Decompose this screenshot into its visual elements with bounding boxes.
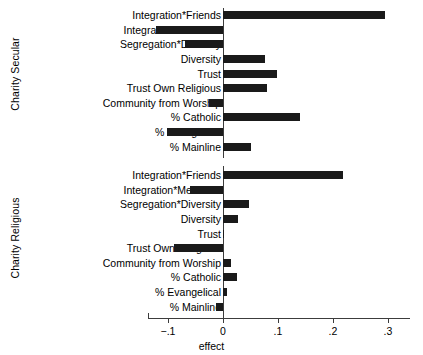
bar-category-label: % Evangelical (155, 287, 221, 298)
x-axis-title: effect (0, 340, 423, 352)
bar-row: Diversity (0, 52, 423, 67)
bar-row: % Evangelical (0, 285, 423, 300)
bar-category-label: Trust Own Religious (127, 83, 221, 94)
bar (174, 244, 224, 252)
bar-category-label: Community from Worship (103, 257, 221, 268)
bar (156, 26, 223, 34)
bar-row: Trust Own Religious (0, 81, 423, 96)
x-axis-tick-label: 0 (220, 325, 226, 337)
bar-row: Segregation*Diversity (0, 197, 423, 212)
x-axis-tick-label: .3 (384, 325, 393, 337)
bar (223, 113, 300, 121)
bar (223, 143, 251, 151)
bar (216, 303, 223, 311)
x-axis-tick (223, 318, 224, 323)
x-axis-line (148, 318, 410, 319)
effect-bar-chart: Charity Secular Charity Religious Integr… (0, 0, 423, 355)
bar-category-label: % Mainline (170, 141, 221, 152)
bar-row: Integration*Friends (0, 8, 423, 23)
panel-charity-secular: Integration*FriendsIntegration*MembersSe… (0, 8, 423, 156)
bar-row: % Catholic (0, 270, 423, 285)
bar-category-label: % Mainline (170, 301, 221, 312)
bar-row: % Evangelical (0, 125, 423, 140)
x-axis-tick-label: .2 (329, 325, 338, 337)
bar (185, 40, 223, 48)
bar-row: Trust (0, 66, 423, 81)
bar (167, 128, 223, 136)
bar-category-label: % Catholic (171, 112, 221, 123)
bar-row: % Mainline (0, 299, 423, 314)
bar (223, 273, 237, 281)
bar-row: Integration*Members (0, 183, 423, 198)
x-axis-tick (333, 318, 334, 323)
bar-row: Community from Worship (0, 256, 423, 271)
bar-row: Segregation*Diversity (0, 37, 423, 52)
bar (223, 11, 385, 19)
x-axis-tick-label: .1 (274, 325, 283, 337)
bar (223, 70, 277, 78)
bar (223, 84, 267, 92)
bar (223, 230, 224, 238)
bar-category-label: Integration*Friends (132, 170, 221, 181)
bar-row: Integration*Members (0, 23, 423, 38)
bar (223, 55, 265, 63)
bar-category-label: Diversity (181, 54, 221, 65)
bar (223, 200, 249, 208)
bar-category-label: Trust (197, 228, 221, 239)
bar-row: % Mainline (0, 139, 423, 154)
bar (190, 186, 223, 194)
bar-row: Trust (0, 226, 423, 241)
bar-category-label: Diversity (181, 214, 221, 225)
bar (223, 259, 231, 267)
x-axis-tick-label: −.1 (161, 325, 176, 337)
bar (209, 99, 223, 107)
bar-category-label: Trust (197, 68, 221, 79)
bar (223, 171, 343, 179)
bar-row: Integration*Friends (0, 168, 423, 183)
bar (223, 288, 227, 296)
x-axis-tick (388, 318, 389, 323)
bar-row: Diversity (0, 212, 423, 227)
x-axis-tick (278, 318, 279, 323)
x-axis-tick (168, 318, 169, 323)
panel-charity-religious: Integration*FriendsIntegration*MembersSe… (0, 168, 423, 316)
bar-category-label: Segregation*Diversity (120, 199, 221, 210)
bar (223, 215, 238, 223)
bar-category-label: % Catholic (171, 272, 221, 283)
bar-category-label: Integration*Friends (132, 10, 221, 21)
bar-category-label: Community from Worship (103, 97, 221, 108)
bar-row: % Catholic (0, 110, 423, 125)
bar-row: Trust Own Religious (0, 241, 423, 256)
bar-row: Community from Worship (0, 96, 423, 111)
